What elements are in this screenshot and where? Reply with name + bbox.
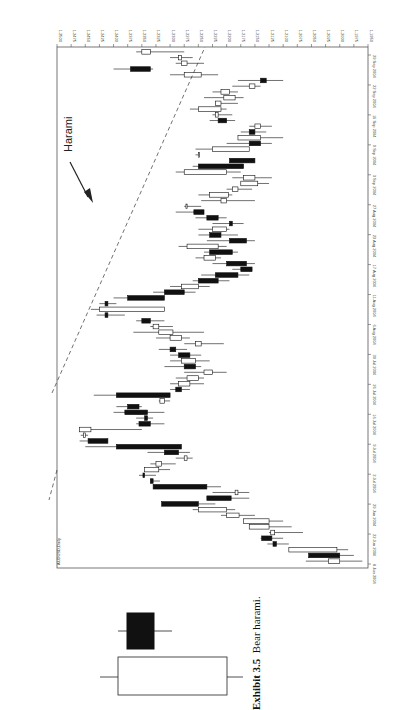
bull-candle-body: [215, 101, 221, 106]
x-tick-label: 17 Aug 2004: [372, 265, 377, 288]
bear-candle-body: [210, 233, 221, 238]
bear-candle-body: [194, 210, 204, 215]
harami-label: Harami: [62, 117, 74, 152]
bull-candle-body: [170, 336, 181, 341]
bear-candle-body: [241, 267, 252, 272]
trendline-extension: [49, 470, 57, 500]
bear-candle-body: [215, 273, 238, 278]
y-tick-label: 1.2125: [270, 30, 275, 43]
bull-candle-body: [227, 513, 239, 518]
bear-candle-body: [261, 78, 267, 83]
bull-candle-body: [232, 187, 238, 192]
bear-candle-body: [262, 536, 272, 541]
x-tick-label: 22 Sep 2004: [372, 85, 377, 108]
bear-candle-body: [116, 444, 181, 449]
bull-candle-body: [235, 490, 238, 495]
bull-candle-body: [181, 284, 198, 289]
bull-candle-body: [204, 370, 212, 375]
chart-title: AUDUSD,Daily: [56, 538, 61, 565]
y-tick-label: 1.2200: [227, 30, 232, 43]
figure-caption: Exhibit 3.5 Bear harami.: [250, 580, 290, 710]
y-tick-label: 1.2150: [255, 30, 260, 43]
bear-candle-body: [145, 416, 148, 421]
x-tick-label: 26 Jul 2004: [372, 384, 377, 405]
large-bull-candle: [118, 657, 227, 695]
bull-candle-body: [198, 107, 221, 112]
bull-candle-body: [187, 244, 218, 249]
bull-candle-body: [99, 307, 164, 312]
bull-candle-body: [181, 359, 195, 364]
x-tick-label: 16 Sep 2004: [372, 115, 377, 138]
y-tick-label: 1.2275: [185, 30, 190, 43]
bull-candle-body: [238, 135, 261, 140]
y-tick-label: 1.2475: [72, 30, 77, 43]
harami-illustration: [100, 613, 243, 695]
y-tick-label: 1.2350: [142, 30, 147, 43]
bear-candle-body: [125, 410, 148, 415]
bear-candle-body: [176, 387, 182, 392]
bear-candle-body: [207, 496, 231, 501]
bull-candle-body: [179, 381, 190, 386]
x-tick-label: 3 Sep 2004: [372, 175, 377, 196]
bear-candle-body: [210, 250, 233, 255]
bull-candle-body: [221, 90, 229, 95]
candle: [229, 158, 254, 163]
bull-candle-body: [271, 530, 275, 535]
caption-text: Bear harami.: [250, 596, 262, 653]
bull-candle-body: [186, 204, 187, 209]
bull-candle-body: [215, 113, 218, 118]
x-tick-label: 23 Aug 2004: [372, 235, 377, 258]
bull-candle-body: [204, 256, 215, 261]
y-tick-label: 1.2075: [298, 30, 303, 43]
bull-candle-body: [159, 330, 173, 335]
x-tick-label: 22 Jun 2004: [372, 534, 377, 557]
y-tick-label: 1.1950: [369, 30, 374, 43]
bull-candle-body: [210, 193, 229, 198]
candle: [193, 164, 244, 169]
bull-candle-body: [196, 341, 202, 346]
y-tick-label: 1.1975: [354, 30, 359, 43]
bear-candle-body: [142, 319, 150, 324]
bull-candle-body: [181, 61, 187, 66]
y-tick-label: 1.2300: [171, 30, 176, 43]
bear-candle-body: [162, 502, 199, 507]
bear-candle-body: [229, 238, 246, 243]
x-tick-label: 9 Sep 2004: [372, 145, 377, 166]
y-tick-label: 1.2450: [86, 30, 91, 43]
bear-candle-body: [131, 67, 151, 72]
bull-candle-body: [145, 467, 159, 472]
y-tick-label: 1.2425: [100, 30, 105, 43]
y-tick-label: 1.2050: [312, 30, 317, 43]
bull-candle-body: [244, 519, 269, 524]
candlestick-chart: 1.25001.24751.24501.24251.24001.23751.23…: [0, 0, 393, 710]
bear-candle-body: [249, 141, 260, 146]
bear-candle-body: [170, 347, 176, 352]
bull-candle-body: [213, 227, 227, 232]
bear-candle-body: [105, 313, 108, 318]
bull-candle-body: [80, 427, 91, 432]
bull-candle-body: [244, 175, 255, 180]
x-tick-label: 29 Sep 2004: [372, 55, 377, 78]
bear-candle-body: [198, 164, 243, 169]
bear-candle-body: [164, 450, 178, 455]
bear-candle-body: [179, 353, 190, 358]
bear-candle-body: [227, 261, 247, 266]
y-tick-label: 1.2500: [58, 30, 63, 43]
bull-candle-body: [224, 95, 235, 100]
bull-candle-body: [198, 507, 226, 512]
exhibit-label: Exhibit 3.5: [250, 659, 262, 710]
x-tick-label: 9 Jul 2004: [372, 444, 377, 463]
bull-candle-body: [249, 525, 269, 530]
bull-candle-body: [184, 456, 187, 461]
bear-candle-body: [309, 553, 340, 558]
bear-candle-body: [198, 278, 218, 283]
x-tick-label: 27 Aug 2004: [372, 205, 377, 228]
y-tick-label: 1.2175: [241, 30, 246, 43]
bear-candle-body: [150, 479, 153, 484]
y-tick-label: 1.2025: [326, 30, 331, 43]
bear-candle-body: [143, 473, 145, 478]
bull-candle-body: [249, 84, 255, 89]
bull-candle-body: [153, 324, 159, 329]
bear-candle-body: [164, 290, 184, 295]
bear-candle-body: [139, 422, 150, 427]
